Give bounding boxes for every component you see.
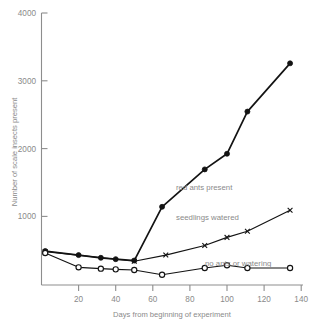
data-point-marker [288, 208, 293, 213]
x-tick-label-100: 100 [220, 295, 234, 304]
annotation-red-ants-present: red ants present [176, 183, 233, 192]
series-red-ants-present [43, 61, 293, 263]
y-tick-label-1000: 1000 [18, 212, 37, 221]
annotation-seedlings-watered: seedlings watered [176, 213, 239, 222]
annotation-no-ants-or-watering: no ants or watering [205, 259, 271, 268]
series-seedlings-watered [43, 208, 293, 264]
data-point-marker [98, 266, 103, 271]
data-point-marker [43, 250, 48, 255]
x-tick-label-20: 20 [74, 295, 84, 304]
data-point-marker [225, 151, 230, 156]
x-axis-title: Days from beginning of experiment [113, 310, 232, 319]
data-point-marker [202, 167, 207, 172]
chart-container: 4000 3000 2000 1000 20 40 60 80 100 120 … [0, 0, 320, 332]
x-tick-label-120: 120 [257, 295, 271, 304]
data-point-marker [113, 267, 118, 272]
series-line [45, 63, 290, 260]
y-tick-label-4000: 4000 [18, 9, 37, 18]
data-point-marker [132, 267, 137, 272]
y-tick-label-2000: 2000 [18, 145, 37, 154]
x-tick-label-60: 60 [148, 295, 158, 304]
data-point-marker [288, 61, 293, 66]
data-point-marker [160, 204, 165, 209]
data-point-marker [245, 109, 250, 114]
data-point-marker [159, 272, 164, 277]
data-point-marker [76, 265, 81, 270]
x-tick-label-80: 80 [185, 295, 195, 304]
data-point-marker [287, 265, 292, 270]
y-axis-title: Number of scale insects present [10, 97, 19, 206]
x-tick-label-40: 40 [111, 295, 121, 304]
y-tick-label-3000: 3000 [18, 77, 37, 86]
x-tick-label-140: 140 [294, 295, 308, 304]
line-chart: 4000 3000 2000 1000 20 40 60 80 100 120 … [0, 0, 320, 332]
